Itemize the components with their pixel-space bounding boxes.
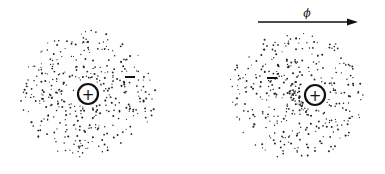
electron-dot [305, 129, 307, 131]
electron-dot [143, 99, 145, 101]
electron-dot [317, 69, 319, 71]
electron-dot [345, 64, 347, 66]
electron-dot [53, 53, 54, 54]
electron-dot [49, 94, 50, 95]
electron-dot [283, 118, 285, 120]
electron-dot [330, 91, 332, 93]
electron-dot [110, 96, 112, 98]
electron-dot [49, 82, 50, 83]
electron-dot [273, 57, 274, 58]
electron-dot [56, 78, 58, 80]
electron-dot [106, 110, 107, 111]
electron-dot [294, 113, 295, 114]
electron-dot [52, 79, 53, 80]
electron-dot [90, 127, 92, 129]
electron-dot [334, 49, 336, 51]
electron-dot [280, 146, 282, 148]
electron-dot [352, 77, 353, 78]
electron-dot [105, 104, 107, 106]
electron-dot [39, 129, 41, 131]
electron-dot [330, 146, 332, 148]
electron-dot [256, 60, 258, 62]
electron-dot [359, 117, 360, 118]
electron-dot [302, 48, 304, 50]
electron-dot [262, 147, 263, 148]
electron-dot [350, 75, 352, 77]
electron-dot [40, 67, 41, 68]
electron-dot [352, 68, 354, 70]
electron-dot [25, 96, 26, 97]
electron-dot [321, 81, 322, 82]
electron-dot [292, 72, 294, 74]
electron-dot [341, 124, 342, 125]
electron-dot [318, 127, 320, 129]
electron-dot [51, 85, 53, 87]
electron-dot [331, 126, 333, 128]
electron-dot [346, 79, 347, 80]
electron-dot [265, 64, 266, 65]
electron-dot [89, 52, 90, 53]
electron-dot [306, 42, 307, 43]
electron-dot [295, 37, 297, 39]
electron-dot [136, 70, 137, 71]
electron-dot [308, 147, 310, 149]
electron-dot [340, 57, 342, 59]
electron-dot [238, 89, 239, 90]
electron-dot [289, 93, 291, 95]
electron-dot [64, 136, 65, 137]
electron-dot [262, 66, 263, 67]
electron-dot [287, 64, 288, 65]
electron-dot [236, 103, 237, 104]
electron-dot [298, 100, 300, 102]
electron-dot [26, 86, 28, 88]
electron-dot [51, 104, 53, 106]
electron-dot [331, 48, 332, 49]
electron-dot [82, 152, 84, 154]
electron-dot [276, 71, 277, 72]
electron-dot [139, 101, 141, 103]
electron-dot [42, 89, 44, 91]
electron-dot [59, 122, 61, 124]
electron-dot [236, 64, 238, 66]
electron-dot [296, 76, 298, 78]
electron-dot [114, 55, 116, 57]
electron-dot [318, 121, 320, 123]
electron-dot [335, 68, 336, 69]
electron-dot [96, 78, 98, 80]
electron-dot [272, 89, 273, 90]
electron-dot [269, 81, 270, 82]
electron-dot [40, 125, 41, 126]
electron-dot [145, 111, 146, 112]
electron-dot [250, 86, 252, 88]
electron-dot [97, 81, 98, 82]
electron-dot [265, 127, 267, 129]
electron-dot [290, 38, 292, 40]
electron-dot [44, 80, 46, 82]
electron-dot [329, 120, 330, 121]
electron-dot [73, 56, 74, 57]
electron-dot [80, 54, 81, 55]
electron-dot [122, 131, 124, 133]
electron-dot [266, 45, 268, 47]
electron-dot [246, 86, 247, 87]
electron-dot [85, 31, 86, 32]
electron-dot [84, 140, 85, 141]
electron-dot [298, 91, 300, 93]
electron-dot [75, 111, 77, 113]
electron-dot [345, 109, 347, 111]
electron-dot [269, 121, 270, 122]
electron-dot [309, 47, 310, 48]
electron-dot [334, 89, 336, 91]
electron-dot [132, 110, 134, 112]
electron-dot [259, 75, 261, 77]
electron-dot [71, 41, 72, 42]
electron-dot [99, 80, 100, 81]
electron-dot [249, 118, 250, 119]
electron-dot [41, 93, 42, 94]
electron-dot [112, 80, 114, 82]
electron-dot [295, 48, 297, 50]
electron-dot [90, 30, 92, 32]
electron-dot [295, 91, 296, 92]
electron-dot [102, 151, 104, 153]
electron-dot [276, 120, 277, 121]
